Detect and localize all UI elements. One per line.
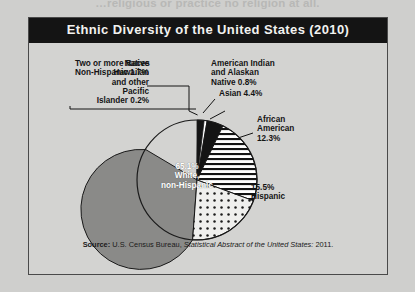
source-prefix: Source: [83,240,111,249]
figure-title-bar: Ethnic Diversity of the United States (2… [29,18,387,43]
figure-title: Ethnic Diversity of the United States (2… [29,22,387,37]
label-african-american: African American 12.3% [257,115,294,143]
source-year: 2011. [315,240,333,249]
label-two-or-more-races: Two or more Races Non-Hispanic 1.7% [75,59,150,78]
label-white-non-hispanic: 65.1% White, non-Hispanic [135,162,239,190]
pie-chart-plot: Native Hawaiian and other Pacific Island… [29,43,387,274]
label-hispanic: 15.5% Hispanic [251,183,285,202]
figure-panel: Ethnic Diversity of the United States (2… [28,17,388,275]
label-asian: Asian 4.4% [219,89,262,98]
scan-artifact-top-text: …religious or practice no religion at al… [0,0,415,11]
source-italic: Statistical Abstract of the United State… [184,240,314,249]
source-note: Source: U.S. Census Bureau, Statistical … [29,240,387,250]
label-american-indian: American Indian and Alaskan Native 0.8% [211,59,275,87]
source-text: U.S. Census Bureau, [112,240,181,249]
